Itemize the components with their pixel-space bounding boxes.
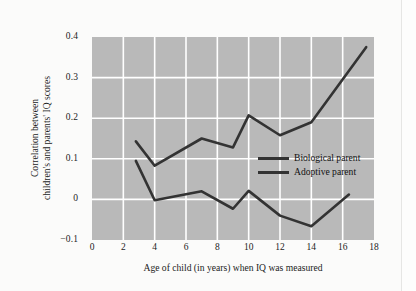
x-tick-label: 14: [299, 243, 323, 253]
data-series-lines: [92, 37, 374, 240]
y-axis-title: Correlation between children's and paren…: [29, 38, 53, 238]
chart-figure: −0.100.10.20.30.4 024681012141618 Biolog…: [0, 0, 402, 291]
plot-area: Biological parent Adoptive parent: [92, 37, 374, 240]
x-tick-label: 10: [237, 243, 261, 253]
x-tick-label: 4: [143, 243, 167, 253]
legend-line-swatch-adoptive: [258, 171, 289, 174]
chart-legend: Biological parent Adoptive parent: [258, 151, 374, 179]
legend-item-biological-parent: Biological parent: [258, 151, 374, 165]
x-tick-label: 16: [331, 243, 355, 253]
x-tick-label: 6: [174, 243, 198, 253]
x-tick-label: 8: [205, 243, 229, 253]
x-tick-label: 12: [268, 243, 292, 253]
x-tick-label: 18: [362, 243, 386, 253]
figure-page: −0.100.10.20.30.4 024681012141618 Biolog…: [0, 0, 416, 291]
legend-line-swatch-biological: [258, 157, 289, 160]
legend-item-adoptive-parent: Adoptive parent: [258, 165, 374, 179]
legend-label-biological-parent: Biological parent: [294, 153, 360, 163]
series-line-biological-parent: [136, 47, 366, 166]
y-axis-title-line-1: Correlation between: [29, 38, 41, 238]
x-tick-label: 2: [111, 243, 135, 253]
page-margin: [402, 0, 416, 291]
y-axis-title-line-2: children's and parents' IQ scores: [41, 38, 53, 238]
x-axis-title: Age of child (in years) when IQ was meas…: [92, 262, 374, 273]
x-tick-label: 0: [80, 243, 104, 253]
legend-label-adoptive-parent: Adoptive parent: [294, 167, 356, 177]
